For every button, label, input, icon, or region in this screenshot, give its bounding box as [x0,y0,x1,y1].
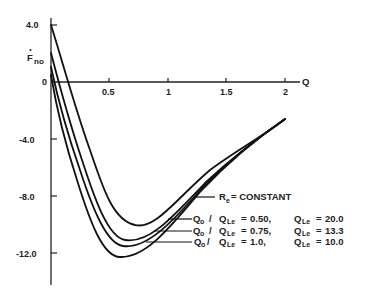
x-tick-label-2: 2 [283,87,288,97]
svg-text:Q: Q [294,236,301,247]
svg-text:13.3: 13.3 [325,225,344,236]
svg-text:o: o [200,218,204,225]
svg-text:o: o [201,241,205,248]
x-tick-label-0.5: 0.5 [102,87,115,97]
svg-text:/: / [209,213,212,224]
x-tick-label-1: 1 [166,87,171,97]
y-tick-label-neg8: -8.0 [19,192,35,202]
annotation-re-constant: R e = CONSTANT [219,191,291,204]
svg-text:=: = [316,225,322,236]
svg-text:e: e [226,197,230,204]
svg-text:=: = [316,236,322,247]
svg-text:Q: Q [219,225,226,236]
x-tick-label-1.5: 1.5 [220,87,233,97]
svg-text:F: F [27,52,33,63]
svg-text:Q: Q [294,225,301,236]
svg-text:=: = [241,236,247,247]
y-axis-label: F no [27,49,44,66]
svg-text:=: = [316,213,322,224]
svg-text:10.0: 10.0 [325,236,344,247]
y-tick-label-neg4: -4.0 [19,135,35,145]
x-axis-label: Q [302,76,309,87]
chart-svg: 4.0 0 -4.0 -8.0 -12.0 0.5 1 1.5 2 Q F no… [0,0,370,298]
svg-text:Le: Le [302,230,310,237]
svg-text:20.0: 20.0 [325,213,344,224]
svg-text:0.75,: 0.75, [250,225,271,236]
svg-text:Le: Le [227,218,235,225]
svg-text:Q: Q [219,213,226,224]
origin-label: 0 [42,77,47,87]
svg-text:R: R [219,191,226,202]
annotation-ratio-1.0: Q o / Q Le = 1.0, Q Le = 10.0 [194,236,344,248]
svg-text:Le: Le [227,230,235,237]
svg-text:/: / [209,225,212,236]
svg-text:no: no [34,57,44,66]
y-tick-label-neg12: -12.0 [16,249,37,259]
svg-text:Le: Le [227,241,235,248]
svg-text:Le: Le [302,218,310,225]
svg-text:= CONSTANT: = CONSTANT [231,191,291,202]
svg-text:1.0,: 1.0, [250,236,266,247]
svg-text:=: = [241,225,247,236]
svg-text:0.50,: 0.50, [250,213,271,224]
svg-text:/: / [207,236,210,247]
annotation-ratio-0.50: Q o / Q Le = 0.50, Q Le = 20.0 [193,213,344,225]
svg-text:Q: Q [219,236,226,247]
y-tick-label-4: 4.0 [26,20,39,30]
svg-text:=: = [241,213,247,224]
svg-text:Le: Le [302,241,310,248]
svg-text:Q: Q [294,213,301,224]
